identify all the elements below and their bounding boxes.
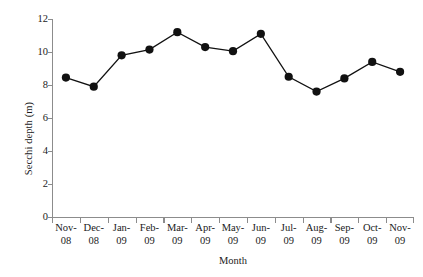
data-series: Nov-08: 8.45Dec-08: 7.9Jan-09: 9.8Feb-09… (52, 19, 414, 217)
data-point-marker: Jun-09: 11.1 (257, 30, 265, 38)
x-axis-title: Month (52, 255, 414, 266)
data-point-marker: Apr-09: 10.3 (201, 43, 209, 51)
plot-area: Nov-08: 8.45Dec-08: 7.9Jan-09: 9.8Feb-09… (52, 19, 414, 217)
data-point-marker: Nov-08: 8.45 (62, 73, 70, 81)
data-point-marker: Feb-09: 10.15 (145, 45, 153, 53)
x-axis-line (52, 217, 414, 218)
x-axis-tick-labels: Nov-08Dec-08Jan-09Feb-09Mar-09Apr-09May-… (52, 222, 414, 256)
data-point-marker: May-09: 10.05 (229, 47, 237, 55)
y-axis-tick-label: 8 (30, 80, 48, 91)
series-line (66, 32, 400, 91)
data-point-marker: Nov-09: 8.8 (396, 68, 404, 76)
data-point-marker: Sep-09: 8.4 (340, 74, 348, 82)
x-axis-tick-label: Nov-09 (380, 222, 420, 247)
y-axis-tick-label: 6 (30, 113, 48, 124)
y-axis-tick-label: 2 (30, 179, 48, 190)
y-axis-tick-mark (48, 151, 52, 152)
y-axis-tick-label: 0 (30, 212, 48, 223)
data-point-marker: Oct-09: 9.4 (368, 58, 376, 66)
data-point-marker: Jan-09: 9.8 (118, 51, 126, 59)
y-axis-tick-mark (48, 52, 52, 53)
y-axis-tick-label: 4 (30, 146, 48, 157)
data-point-marker: Mar-09: 11.2 (173, 28, 181, 36)
y-axis-tick-mark (48, 184, 52, 185)
data-point-marker: Aug-09: 7.6 (312, 88, 320, 96)
y-axis-tick-label: 12 (30, 14, 48, 25)
data-point-marker: Dec-08: 7.9 (90, 83, 98, 91)
secchi-depth-line-chart: Secchi depth (m) 024681012 Nov-08: 8.45D… (0, 0, 423, 277)
data-point-marker: Jul-09: 8.5 (285, 73, 293, 81)
y-axis-tick-label: 10 (30, 47, 48, 58)
y-axis-tick-mark (48, 118, 52, 119)
y-axis-tick-mark (48, 85, 52, 86)
y-axis-tick-mark (48, 19, 52, 20)
